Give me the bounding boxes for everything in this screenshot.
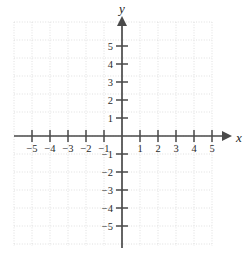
y-axis-tick-label: 3 xyxy=(108,77,113,88)
x-axis-tick-labels: −5 −4 −3 −2 −1 1 2 3 4 5 xyxy=(26,143,214,154)
x-axis-tick-label: −5 xyxy=(26,143,37,154)
x-axis-tick-label: 4 xyxy=(191,143,197,154)
coordinate-grid-screenshot: −5 −4 −3 −2 −1 1 2 3 4 5 x xyxy=(0,0,249,263)
x-axis-tick-label: −3 xyxy=(62,143,73,154)
x-axis-label: x xyxy=(235,130,242,145)
y-axis-label: y xyxy=(117,1,125,16)
y-axis-tick-label: −1 xyxy=(102,149,113,160)
y-axis-tick-label: 2 xyxy=(108,95,113,106)
grid-lines-group xyxy=(14,22,212,246)
x-axis-tick-label: 5 xyxy=(209,143,214,154)
y-axis: 5 4 3 2 1 −1 −2 −3 −4 −5 y xyxy=(102,1,128,248)
x-axis-tick-label: 3 xyxy=(173,143,178,154)
y-axis-tick-label: 5 xyxy=(108,41,113,52)
grid-lines-horizontal xyxy=(14,22,212,244)
x-axis-tick-label: 1 xyxy=(137,143,142,154)
x-axis: −5 −4 −3 −2 −1 1 2 3 4 5 x xyxy=(14,130,242,154)
y-axis-tick-label: 4 xyxy=(108,59,114,70)
x-axis-tick-label: −2 xyxy=(80,143,91,154)
x-axis-arrow-icon xyxy=(222,131,232,141)
y-axis-arrow-icon xyxy=(117,16,127,26)
coordinate-plane-figure: −5 −4 −3 −2 −1 1 2 3 4 5 x xyxy=(0,0,249,263)
y-axis-tick-label: −2 xyxy=(102,167,113,178)
grid-lines-vertical xyxy=(14,22,212,246)
y-axis-tick-label: −5 xyxy=(102,221,113,232)
x-axis-tick-label: 2 xyxy=(155,143,160,154)
x-axis-tick-label: −4 xyxy=(44,143,56,154)
y-axis-tick-label: −4 xyxy=(102,203,114,214)
y-axis-tick-label: −3 xyxy=(102,185,113,196)
y-axis-tick-label: 1 xyxy=(108,113,113,124)
